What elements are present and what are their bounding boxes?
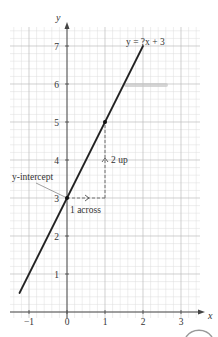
y-axis-label: y xyxy=(55,12,61,23)
x-tick-label: 1 xyxy=(103,317,108,327)
x-tick-label: 2 xyxy=(141,317,146,327)
equation-label: y = ?x + 3 xyxy=(126,37,165,47)
y-tick-label: 5 xyxy=(54,118,59,128)
y-tick-label: 2 xyxy=(54,232,59,242)
print-smudge xyxy=(124,83,168,87)
linear-graph: −101231234567 x y y-intercept 1 across 2… xyxy=(0,0,218,337)
x-axis-label: x xyxy=(207,310,213,321)
y-tick-label: 3 xyxy=(54,194,59,204)
y-tick-label: 7 xyxy=(54,42,59,52)
y-tick-label: 1 xyxy=(54,270,59,280)
up-label: 2 up xyxy=(111,155,128,165)
x-tick-label: 0 xyxy=(65,317,70,327)
x-tick-label: −1 xyxy=(24,317,34,327)
x-tick-label: 3 xyxy=(179,317,184,327)
y-intercept-point xyxy=(65,196,69,200)
line-y-2x-plus-3 xyxy=(20,46,144,293)
y-tick-label: 4 xyxy=(54,156,59,166)
page-corner-circle xyxy=(186,330,212,337)
y-intercept-label: y-intercept xyxy=(12,172,54,182)
point-1-5 xyxy=(103,120,107,124)
across-label: 1 across xyxy=(70,205,101,215)
y-tick-label: 6 xyxy=(54,80,59,90)
x-axis-arrow-icon xyxy=(198,310,205,315)
y-intercept-pointer xyxy=(36,183,65,197)
slope-triangle xyxy=(67,122,108,201)
axes xyxy=(10,22,205,318)
y-axis-arrow-icon xyxy=(65,22,70,29)
